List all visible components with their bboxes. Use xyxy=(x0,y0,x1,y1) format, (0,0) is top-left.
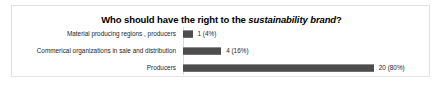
bar-track-2: 20 (80%) xyxy=(183,61,431,75)
category-label-0: Material producing regions , producers xyxy=(12,27,180,41)
chart-title: Who should have the right to the sustain… xyxy=(12,14,431,25)
chart-container: Who should have the right to the sustain… xyxy=(11,5,430,77)
value-label-0: 1 (4%) xyxy=(198,27,217,41)
bar-1[interactable] xyxy=(183,47,221,55)
plot-area: Material producing regions , producers 1… xyxy=(12,27,431,75)
bar-2[interactable] xyxy=(183,64,374,72)
chart-title-text-after: ? xyxy=(336,14,342,25)
bar-row: Commerical organizations in sale and dis… xyxy=(12,44,431,58)
category-label-2: Producers xyxy=(12,61,180,75)
chart-title-text-before: Who should have the right to the xyxy=(101,14,248,25)
category-label-1: Commerical organizations in sale and dis… xyxy=(12,44,180,58)
bar-row: Material producing regions , producers 1… xyxy=(12,27,431,41)
chart-title-emphasis: sustainability brand xyxy=(248,14,336,25)
bar-track-0: 1 (4%) xyxy=(183,27,431,41)
bar-row: Producers 20 (80%) xyxy=(12,61,431,75)
value-label-2: 20 (80%) xyxy=(379,61,405,75)
bar-track-1: 4 (16%) xyxy=(183,44,431,58)
bar-0[interactable] xyxy=(183,30,193,38)
value-label-1: 4 (16%) xyxy=(226,44,248,58)
